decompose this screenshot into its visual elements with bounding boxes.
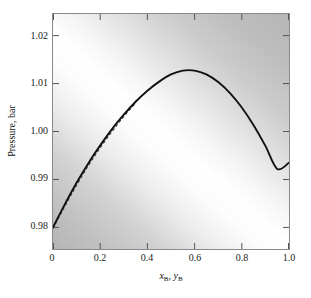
x-tick-label: 0.4 bbox=[141, 253, 154, 263]
y-tick-label: 1.02 bbox=[31, 31, 49, 41]
figure: Pressure, bar 1.02 1.01 1.00 0.99 0.98 0… bbox=[0, 0, 311, 298]
solid-curve bbox=[53, 70, 289, 227]
x-tick-label: 0.2 bbox=[94, 253, 107, 263]
x-axis-title-y-sub: B bbox=[178, 275, 183, 283]
x-tick-label: 0.8 bbox=[236, 253, 249, 263]
y-axis-title: Pressure, bar bbox=[6, 105, 17, 157]
plot-area bbox=[52, 13, 290, 250]
x-axis-title-separator: , bbox=[169, 270, 172, 281]
x-axis-title-x-sub: B bbox=[164, 275, 169, 283]
dashed-curve bbox=[53, 103, 136, 228]
x-axis-title-y: y bbox=[174, 270, 178, 281]
x-tick-label: 0 bbox=[50, 253, 55, 263]
y-tick-label: 1.00 bbox=[31, 126, 49, 136]
y-tick-label: 0.99 bbox=[31, 173, 49, 183]
x-tick-label: 0.6 bbox=[189, 253, 202, 263]
x-axis-title: xB, yB bbox=[159, 270, 182, 281]
plot-canvas bbox=[53, 14, 289, 249]
x-tick-label: 1.0 bbox=[283, 253, 296, 263]
y-tick-label: 1.01 bbox=[31, 78, 49, 88]
y-tick-label: 0.98 bbox=[31, 221, 49, 231]
axis-ticks bbox=[53, 14, 289, 249]
